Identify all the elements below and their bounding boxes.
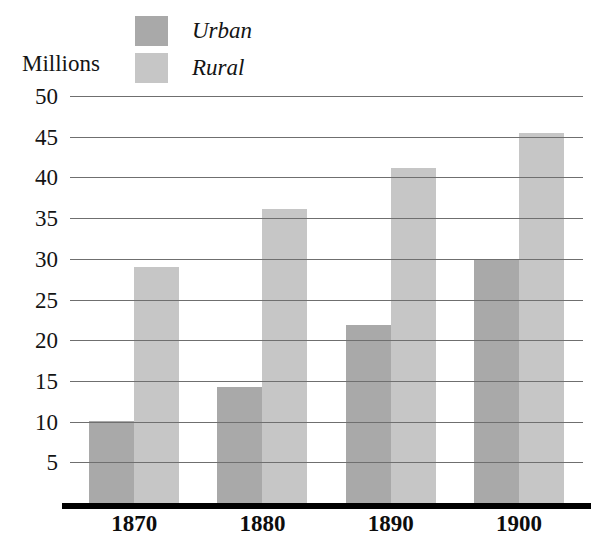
legend-item-rural: Rural bbox=[135, 49, 335, 86]
x-axis-tick-label-1900: 1900 bbox=[496, 512, 542, 535]
legend-swatch-rural-icon bbox=[135, 53, 168, 83]
x-axis-tick-label-1870: 1870 bbox=[111, 512, 157, 535]
y-axis-tick-label: 45 bbox=[14, 125, 58, 148]
gridline bbox=[70, 259, 583, 260]
bar-chart: Urban Rural Millions 5045403530252015105… bbox=[0, 0, 597, 542]
bar-urban-1880 bbox=[217, 387, 262, 503]
plot-area: 5045403530252015105 bbox=[70, 96, 583, 503]
gridline bbox=[70, 96, 583, 97]
legend-label-rural: Rural bbox=[192, 56, 244, 79]
gridline bbox=[70, 177, 583, 178]
y-axis-tick-label: 10 bbox=[14, 410, 58, 433]
x-axis-tick-labels: 1870188018901900 bbox=[70, 512, 583, 542]
gridline bbox=[70, 422, 583, 423]
bar-rural-1870 bbox=[134, 267, 179, 503]
y-axis-tick-label: 20 bbox=[14, 329, 58, 352]
y-axis-tick-label: 25 bbox=[14, 288, 58, 311]
legend-item-urban: Urban bbox=[135, 12, 335, 49]
y-axis-tick-label: 30 bbox=[14, 247, 58, 270]
gridline bbox=[70, 137, 583, 138]
x-axis-tick-label-1880: 1880 bbox=[239, 512, 285, 535]
y-axis-title: Millions bbox=[22, 52, 100, 75]
x-axis-tick-label-1890: 1890 bbox=[368, 512, 414, 535]
gridline bbox=[70, 462, 583, 463]
legend-label-urban: Urban bbox=[192, 19, 252, 42]
bar-urban-1890 bbox=[346, 325, 391, 503]
y-axis-tick-label: 40 bbox=[14, 166, 58, 189]
x-axis-line bbox=[62, 503, 591, 509]
chart-legend: Urban Rural bbox=[135, 12, 335, 86]
gridline bbox=[70, 218, 583, 219]
bar-rural-1880 bbox=[262, 209, 307, 503]
y-axis-tick-label: 5 bbox=[14, 451, 58, 474]
y-axis-tick-label: 15 bbox=[14, 369, 58, 392]
gridline bbox=[70, 340, 583, 341]
legend-swatch-urban-icon bbox=[135, 16, 168, 46]
y-axis-tick-label: 35 bbox=[14, 207, 58, 230]
gridline bbox=[70, 300, 583, 301]
bar-rural-1900 bbox=[519, 133, 564, 503]
gridline bbox=[70, 381, 583, 382]
y-axis-tick-label: 50 bbox=[14, 85, 58, 108]
